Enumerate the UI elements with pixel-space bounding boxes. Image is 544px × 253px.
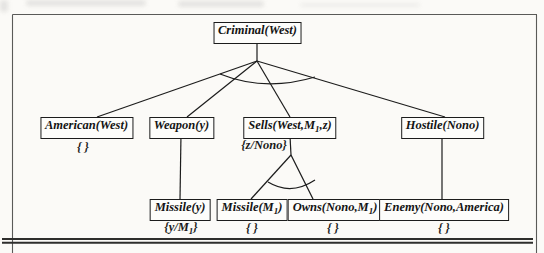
node-label-post: ) xyxy=(278,200,282,214)
node-label-pre: Missile(y) xyxy=(155,200,206,214)
edge-weapon-missile-y xyxy=(180,134,181,199)
node-label-post: ) xyxy=(373,200,377,214)
node-label-pre: Enemy(Nono,America) xyxy=(384,200,504,214)
substitution-text-pre: { } xyxy=(327,221,339,235)
node-american-west: American(West) xyxy=(40,117,133,139)
substitution-text-post: } xyxy=(193,220,197,234)
and-arc-sells xyxy=(268,180,315,189)
node-owns-nono-m1: Owns(Nono,M1) xyxy=(288,199,383,221)
edge-sells-owns xyxy=(291,155,313,199)
node-label-pre: Sells(West,M xyxy=(248,118,315,132)
substitution-text-pre: { } xyxy=(438,221,450,235)
edge-root-american xyxy=(97,61,257,117)
substitution-sells: {z/Nono} xyxy=(241,138,287,154)
substitution-text-pre: { } xyxy=(77,140,89,154)
edge-sells-missile-m1 xyxy=(251,155,291,199)
node-label-pre: Weapon(y) xyxy=(154,118,209,132)
substitution-text-pre: {z/Nono} xyxy=(241,138,287,152)
double-rule xyxy=(2,239,533,243)
proof-tree-figure: Criminal(West) American(West) Weapon(y) … xyxy=(0,0,544,253)
node-label-post: ,z) xyxy=(320,118,332,132)
node-label-pre: Hostile(Nono) xyxy=(406,118,480,132)
node-weapon-y: Weapon(y) xyxy=(149,117,214,139)
substitution-enemy: { } xyxy=(438,221,450,237)
edge-root-weapon xyxy=(187,61,257,117)
substitution-missile-y: {y/M1} xyxy=(164,220,197,236)
node-sells-west-m1-z: Sells(West,M1,z) xyxy=(243,117,336,139)
node-hostile-nono: Hostile(Nono) xyxy=(401,117,485,139)
node-missile-y: Missile(y) xyxy=(150,199,211,221)
node-label-pre: Criminal(West) xyxy=(218,23,297,37)
node-label-pre: American(West) xyxy=(45,118,128,132)
node-criminal-west: Criminal(West) xyxy=(213,22,302,44)
node-missile-m1: Missile(M1) xyxy=(217,199,288,221)
substitution-american: { } xyxy=(77,140,89,156)
node-enemy-nono-america: Enemy(Nono,America) xyxy=(379,199,509,221)
substitution-missile-m1: { } xyxy=(246,221,258,237)
substitution-owns: { } xyxy=(327,221,339,237)
substitution-text-pre: {y/M xyxy=(164,220,189,234)
node-label-pre: Owns(Nono,M xyxy=(293,200,369,214)
node-label-pre: Missile(M xyxy=(222,200,274,214)
substitution-text-pre: { } xyxy=(246,221,258,235)
edge-sells-stem xyxy=(290,136,291,155)
